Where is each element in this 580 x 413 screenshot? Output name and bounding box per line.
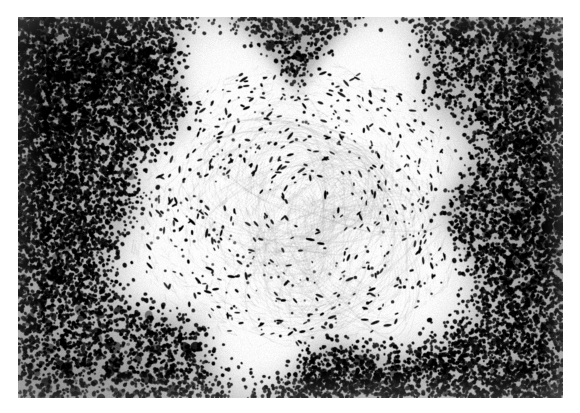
photomicrograph-image	[18, 17, 563, 398]
micrograph-canvas	[18, 17, 563, 398]
figure-page	[0, 0, 580, 413]
